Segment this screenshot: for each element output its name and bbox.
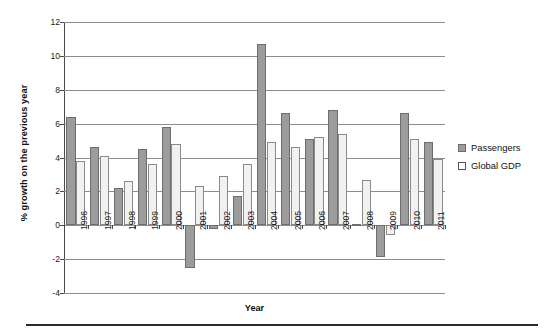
x-tick-label-2001: 2001 xyxy=(199,211,208,230)
x-tick-label-2003: 2003 xyxy=(247,211,256,230)
y-tick-label: 0 xyxy=(40,221,60,230)
x-tick-label-2004: 2004 xyxy=(270,211,279,230)
y-tick-label: 8 xyxy=(40,86,60,95)
chart-figure: % growth on the previous year 121086420-… xyxy=(0,0,553,331)
x-axis-title: Year xyxy=(64,303,445,313)
bar-passengers-1997 xyxy=(90,147,99,225)
bar-passengers-2011 xyxy=(424,142,433,225)
y-axis-title: % growth on the previous year xyxy=(19,53,29,253)
y-tick-label: 4 xyxy=(40,154,60,163)
bar-passengers-2007 xyxy=(328,110,337,225)
x-tick-label-2008: 2008 xyxy=(366,211,375,230)
bottom-divider xyxy=(26,324,538,326)
bar-passengers-2001 xyxy=(185,225,194,267)
x-tick-label-2010: 2010 xyxy=(413,211,422,230)
x-tick-label-2002: 2002 xyxy=(223,211,232,230)
y-tick-label: 12 xyxy=(40,18,60,27)
plot-area xyxy=(64,22,445,293)
y-tick-label: 6 xyxy=(40,120,60,129)
x-tick-label-1996: 1996 xyxy=(80,211,89,230)
legend-label: Passengers xyxy=(471,142,521,153)
x-tick-label-2009: 2009 xyxy=(389,211,398,230)
y-tick-label: -2 xyxy=(40,255,60,264)
x-tick-label-2011: 2011 xyxy=(437,212,446,230)
legend-item-gdp: Global GDP xyxy=(458,160,521,171)
bar-passengers-2008 xyxy=(352,224,361,226)
bar-passengers-2003 xyxy=(233,196,242,225)
x-tick-label-2007: 2007 xyxy=(342,211,351,230)
legend-label: Global GDP xyxy=(471,160,521,171)
bar-passengers-2004 xyxy=(257,44,266,225)
bar-passengers-2006 xyxy=(305,139,314,225)
bar-passengers-2000 xyxy=(162,127,171,225)
legend-swatch-passengers xyxy=(458,144,466,152)
x-tick-label-1997: 1997 xyxy=(104,211,113,230)
x-tick-label-2000: 2000 xyxy=(175,211,184,230)
legend-swatch-gdp xyxy=(458,162,466,170)
bar-passengers-2005 xyxy=(281,113,290,225)
y-tick-label: 2 xyxy=(40,187,60,196)
chart-legend: PassengersGlobal GDP xyxy=(458,142,521,178)
bar-passengers-2010 xyxy=(400,113,409,225)
bar-passengers-1998 xyxy=(114,188,123,225)
bar-passengers-2009 xyxy=(376,225,385,257)
legend-item-passengers: Passengers xyxy=(458,142,521,153)
bar-passengers-2002 xyxy=(209,225,218,228)
x-tick-label-2006: 2006 xyxy=(318,211,327,230)
x-tick-label-2005: 2005 xyxy=(294,211,303,230)
y-tick-label: 10 xyxy=(40,52,60,61)
bar-passengers-1999 xyxy=(138,149,147,225)
gridline xyxy=(64,293,445,294)
x-tick-mark xyxy=(64,225,65,229)
x-tick-label-1998: 1998 xyxy=(128,211,137,230)
bar-passengers-1996 xyxy=(66,117,75,225)
x-tick-label-1999: 1999 xyxy=(151,211,160,230)
y-tick-label: -4 xyxy=(40,289,60,298)
